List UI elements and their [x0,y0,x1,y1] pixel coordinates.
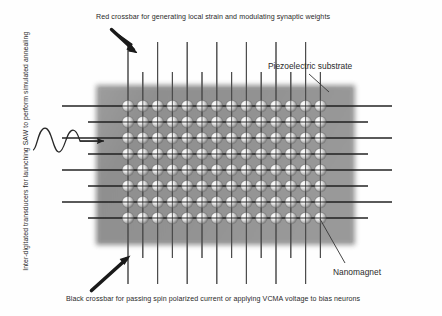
label-red-crossbar: Red crossbar for generating local strain… [96,14,330,22]
label-black-crossbar: Black crossbar for passing spin polarize… [66,296,360,304]
bottom-arrow-shaft [92,259,127,291]
label-nanomagnet: Nanomagnet [333,268,381,277]
label-interdigitated-transducers: Inter-digitated transducers for launchin… [22,41,30,271]
saw-wave-group [33,128,104,152]
label-piezoelectric-substrate: Piezoelectric substrate [268,62,352,71]
saw-wave-icon [33,128,98,152]
diagram-figure: Red crossbar for generating local strain… [0,0,442,316]
